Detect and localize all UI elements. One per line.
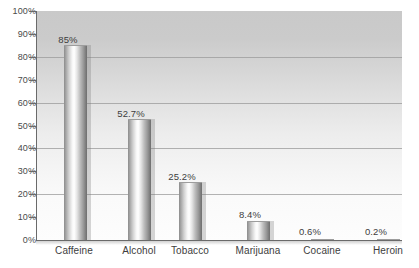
gridline-60 <box>37 103 402 104</box>
x-axis: Caffeine Alcohol Tobacco Marijuana Cocai… <box>36 245 401 267</box>
value-label-alcohol: 52.7% <box>108 108 154 119</box>
y-tick-mark-70 <box>29 80 36 81</box>
gridline-80 <box>37 57 402 58</box>
y-tick-mark-60 <box>29 103 36 104</box>
category-label-marijuana: Marijuana <box>224 245 292 256</box>
y-tick-mark-100 <box>29 11 36 12</box>
category-label-heroin: Heroin <box>358 245 418 256</box>
value-label-heroin: 0.2% <box>356 226 396 237</box>
y-tick-mark-50 <box>29 126 36 127</box>
bar-alcohol[interactable] <box>128 119 151 240</box>
y-tick-mark-90 <box>29 34 36 35</box>
y-tick-mark-20 <box>29 194 36 195</box>
y-tick-mark-40 <box>29 148 36 149</box>
value-label-cocaine: 0.6% <box>290 226 330 237</box>
bar-chart-figure: 100% 90% 80% 70% 60% 50% 40% 30% 20% 10%… <box>0 0 419 268</box>
category-label-tobacco: Tobacco <box>160 245 220 256</box>
value-label-tobacco: 25.2% <box>159 171 205 182</box>
bar-caffeine[interactable] <box>64 45 87 240</box>
gridline-20 <box>37 194 402 195</box>
bar-heroin[interactable] <box>377 239 400 240</box>
category-label-caffeine: Caffeine <box>44 245 104 256</box>
value-label-marijuana: 8.4% <box>230 209 270 220</box>
plot-area <box>36 11 402 241</box>
bar-marijuana[interactable] <box>247 221 270 240</box>
y-tick-mark-80 <box>29 57 36 58</box>
bar-cocaine[interactable] <box>311 239 334 240</box>
value-label-caffeine: 85% <box>48 34 88 45</box>
y-tick-mark-10 <box>29 217 36 218</box>
category-label-cocaine: Cocaine <box>292 245 352 256</box>
y-tick-mark-30 <box>29 171 36 172</box>
bar-tobacco[interactable] <box>179 182 202 240</box>
y-tick-label-0: 0% <box>3 235 36 245</box>
gridline-40 <box>37 148 402 149</box>
y-axis: 100% 90% 80% 70% 60% 50% 40% 30% 20% 10%… <box>0 0 36 268</box>
